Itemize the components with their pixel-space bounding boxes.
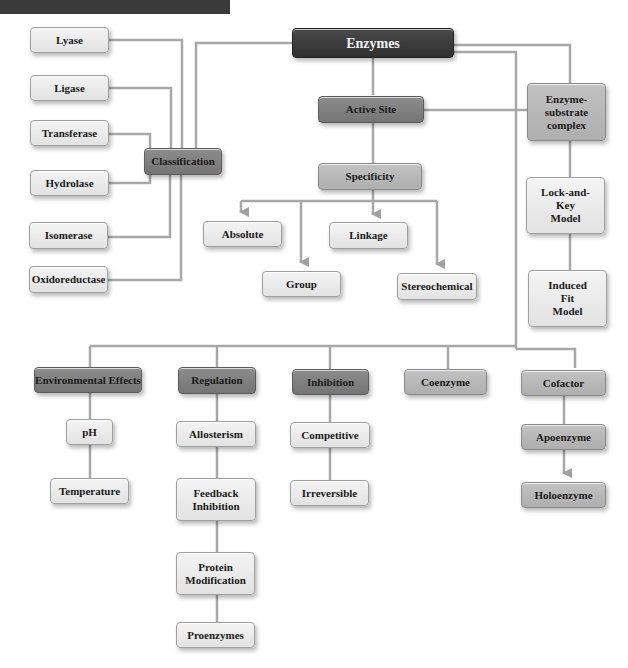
node-allosterism: Allosterism	[176, 421, 256, 447]
node-linkage: Linkage	[329, 222, 408, 249]
node-proenzymes: Proenzymes	[176, 622, 255, 648]
node-group: Group	[262, 271, 341, 297]
node-active-site: Active Site	[318, 96, 424, 123]
node-holoenzyme: Holoenzyme	[521, 482, 606, 508]
node-competitive: Competitive	[290, 422, 370, 448]
node-ph: pH	[66, 419, 113, 445]
node-hydrolase: Hydrolase	[30, 170, 109, 196]
node-classification: Classification	[144, 148, 222, 175]
node-regulation: Regulation	[178, 367, 256, 394]
node-absolute: Absolute	[203, 221, 282, 247]
node-enzyme-substrate-complex: Enzyme- substrate complex	[527, 83, 606, 141]
node-enzymes: Enzymes	[292, 28, 454, 58]
node-apoenzyme: Apoenzyme	[521, 424, 606, 450]
node-irreversible: Irreversible	[290, 480, 369, 506]
node-inhibition: Inhibition	[292, 369, 369, 395]
node-protein-modification: Protein Modification	[176, 552, 255, 595]
node-ligase: Ligase	[30, 75, 109, 101]
node-specificity: Specificity	[318, 163, 422, 190]
node-feedback-inhibition: Feedback Inhibition	[176, 478, 256, 521]
node-stereochemical: Stereochemical	[397, 273, 477, 300]
node-oxidoreductase: Oxidoreductase	[29, 266, 108, 293]
node-lock-and-key-model: Lock-and- Key Model	[526, 177, 605, 234]
node-induced-fit-model: Induced Fit Model	[528, 270, 607, 327]
node-cofactor: Cofactor	[521, 370, 606, 396]
node-isomerase: Isomerase	[29, 222, 108, 249]
node-lyase: Lyase	[30, 27, 109, 53]
node-environmental-effects: Environmental Effects	[34, 367, 142, 393]
node-transferase: Transferase	[30, 120, 109, 146]
node-temperature: Temperature	[50, 478, 129, 504]
node-coenzyme: Coenzyme	[404, 369, 487, 395]
